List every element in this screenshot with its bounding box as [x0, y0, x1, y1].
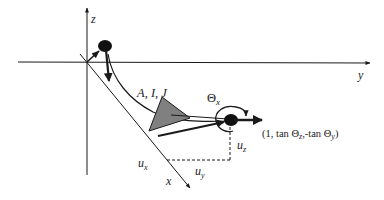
diagram-canvas: z y x A, I, J Θx: [0, 0, 384, 200]
beam-element-diagram: z y x A, I, J Θx: [0, 0, 384, 200]
u-x-label: ux: [138, 156, 148, 172]
y-axis: [18, 62, 370, 63]
position-vector-node1: [87, 51, 99, 62]
u-z-label: uz: [237, 138, 247, 154]
z-axis-label: z: [90, 12, 96, 26]
y-axis-label: y: [357, 68, 364, 82]
x-axis-label: x: [165, 174, 172, 188]
theta-x-label: Θx: [207, 91, 220, 107]
direction-vector-label: (1, tan Θz,-tan Θy): [262, 128, 339, 141]
rotation-arrow-head: [236, 107, 246, 116]
cross-section-triangle: [149, 97, 190, 131]
u-y-label: uy: [195, 164, 205, 180]
